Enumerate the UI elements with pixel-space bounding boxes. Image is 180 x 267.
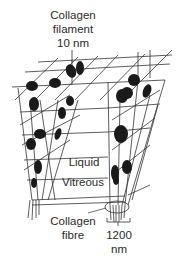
- vitreous-label: Vitreous: [58, 175, 108, 189]
- fibre-pointer-line: [88, 208, 106, 213]
- filament-size: 10 nm: [48, 36, 98, 50]
- filament-line1: Collagen: [48, 8, 98, 22]
- fibre-line2: fibre: [48, 228, 98, 242]
- liquid-label: Liquid: [64, 155, 104, 169]
- fibre-size-value: 1200: [104, 228, 134, 242]
- filament-line2: filament: [48, 22, 98, 36]
- scale-bracket: [107, 218, 130, 226]
- collagen-fibre-ring: [105, 201, 129, 213]
- fibre-size-label: 1200 nm: [104, 228, 134, 256]
- fibre-line1: Collagen: [48, 214, 98, 228]
- collagen-fibre-label: Collagen fibre: [48, 214, 98, 242]
- collagen-filament-label: Collagen filament 10 nm: [48, 8, 98, 50]
- fibre-size-unit: nm: [104, 242, 134, 256]
